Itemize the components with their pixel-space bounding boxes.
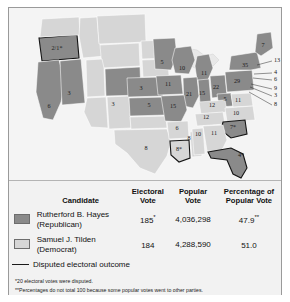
state-electoral-number: 3 <box>67 89 70 96</box>
leader-line <box>251 84 272 89</box>
state-montana <box>97 14 146 44</box>
state-electoral-number: 6 <box>175 124 178 131</box>
state-electoral-number: 2/1* <box>51 44 62 51</box>
electoral-vote-value: 185 <box>140 216 153 225</box>
leader-label-number: 13 <box>274 56 280 63</box>
state-electoral-number: 11 <box>201 69 207 76</box>
header-electoral-line2: Vote <box>140 196 156 205</box>
leader-label-number: 3 <box>274 91 277 98</box>
electoral-vote-value: 184 <box>141 241 154 250</box>
state-electoral-number: 12 <box>209 101 215 108</box>
percentage-marker: ** <box>254 214 259 220</box>
header-candidate: Candidate <box>35 187 127 207</box>
table-header-row: Candidate Electoral Vote Popular Vote Pe… <box>9 187 281 207</box>
table-row: Rutherford B. Hayes(Republican)185*4,036… <box>9 207 281 232</box>
popular-vote-cell: 4,288,590 <box>169 232 217 257</box>
map-svg: 2/1*63335815688*510111121152229357511121… <box>9 8 281 180</box>
state-electoral-number: 11 <box>235 96 241 103</box>
leader-label-number: 6 <box>274 75 277 82</box>
disputed-legend-row: Disputed electoral outcome <box>9 257 281 272</box>
leader-label-number: 4 <box>274 68 277 75</box>
state-electoral-number: 7 <box>261 41 264 48</box>
electoral-vote-cell: 185* <box>127 207 170 232</box>
state-electoral-number: 12 <box>203 113 209 120</box>
popular-vote-cell: 4,036,298 <box>169 207 217 232</box>
candidate-name-cell: Samuel J. Tilden(Democrat) <box>35 232 127 257</box>
leader-label-number: 9 <box>274 84 277 91</box>
state-washington <box>40 17 80 37</box>
candidate-name-line2: (Democrat) <box>37 245 125 255</box>
us-electoral-map: 2/1*63335815688*510111121152229357511121… <box>9 8 281 180</box>
percentage-value: 51.0 <box>241 241 257 250</box>
state-electoral-number: 5 <box>147 101 150 108</box>
state-electoral-number: 7* <box>230 123 236 130</box>
election-map-figure: 2/1*63335815688*510111121152229357511121… <box>8 7 282 295</box>
state-arizona <box>84 97 108 128</box>
results-table: Candidate Electoral Vote Popular Vote Pe… <box>9 187 281 272</box>
leader-line <box>254 73 272 74</box>
header-percentage-line2: Popular Vote <box>226 196 272 205</box>
candidate-name-line1: Samuel J. Tilden <box>37 235 125 245</box>
disputed-legend-label: Disputed electoral outcome <box>33 260 130 269</box>
leader-line <box>253 78 272 80</box>
state-electoral-number: 3 <box>139 84 142 91</box>
percentage-cell: 51.0 <box>217 232 281 257</box>
state-electoral-number: 11 <box>165 80 171 87</box>
header-popular-line1: Popular <box>179 187 207 196</box>
state-electoral-number: 11 <box>211 129 217 136</box>
percentage-value: 47.9 <box>239 216 255 225</box>
header-electoral-vote: Electoral Vote <box>127 187 170 207</box>
state-electoral-number: 5 <box>160 58 163 65</box>
state-electoral-number: 10 <box>179 64 185 71</box>
footnote-one: *20 electoral votes were disputed. <box>9 278 93 286</box>
candidate-color-swatch <box>14 239 30 249</box>
footnote-two: **Percentages do not total 100 because s… <box>9 287 203 295</box>
table-row: Samuel J. Tilden(Democrat)1844,288,59051… <box>9 232 281 257</box>
header-percentage-line1: Percentage of <box>224 187 274 196</box>
header-percentage: Percentage of Popular Vote <box>217 187 281 207</box>
candidate-name-line2: (Republican) <box>37 220 125 230</box>
header-electoral-line1: Electoral <box>132 187 164 196</box>
state-electoral-number: 35 <box>242 61 248 68</box>
state-electoral-number: 4* <box>238 151 244 158</box>
state-texas <box>114 129 171 174</box>
leader-label-number: 8 <box>274 100 277 107</box>
candidate-color-swatch-cell <box>9 207 35 232</box>
header-candidate-label: Candidate <box>62 196 99 205</box>
electoral-vote-cell: 184 <box>127 232 170 257</box>
state-north-carolina <box>225 106 255 122</box>
state-electoral-number: 21 <box>186 90 192 97</box>
state-utah <box>86 59 105 97</box>
header-popular-vote: Popular Vote <box>169 187 217 207</box>
state-electoral-number: 10 <box>233 109 239 116</box>
state-electoral-number: 22 <box>213 83 219 90</box>
header-swatch-spacer <box>9 187 35 207</box>
state-electoral-number: 29 <box>234 77 240 84</box>
state-electoral-number: 3 <box>111 100 114 107</box>
candidate-name-line1: Rutherford B. Hayes <box>37 210 125 220</box>
candidate-name-cell: Rutherford B. Hayes(Republican) <box>35 207 127 232</box>
state-electoral-number: 15 <box>199 89 205 96</box>
state-electoral-number: 8* <box>176 145 182 152</box>
leader-label-group: 1346938 <box>274 56 280 107</box>
percentage-cell: 47.9** <box>217 207 281 232</box>
state-electoral-number: 15 <box>170 102 176 109</box>
header-popular-line2: Vote <box>185 196 201 205</box>
state-electoral-number: 8 <box>187 134 190 141</box>
state-electoral-number: 10 <box>195 130 201 137</box>
disputed-line-icon <box>12 264 29 265</box>
state-tennessee <box>195 112 225 126</box>
table-body: Rutherford B. Hayes(Republican)185*4,036… <box>9 207 281 257</box>
state-nevada <box>60 59 85 105</box>
state-electoral-number: 6 <box>47 102 50 109</box>
state-electoral-number: 8 <box>144 144 147 151</box>
electoral-vote-marker: * <box>153 214 155 220</box>
state-wyoming <box>100 43 140 68</box>
candidate-color-swatch-cell <box>9 232 35 257</box>
state-electoral-number: 5 <box>223 95 226 102</box>
candidate-color-swatch <box>14 214 30 224</box>
disputed-legend-cell: Disputed electoral outcome <box>9 257 281 272</box>
state-oklahoma-territory <box>130 116 167 129</box>
